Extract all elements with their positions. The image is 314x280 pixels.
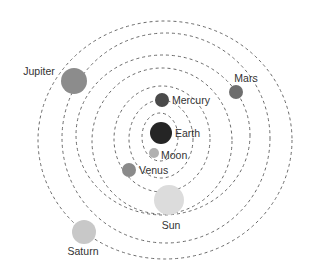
saturn-label: Saturn: [68, 245, 99, 257]
jupiter-label: Jupiter: [23, 65, 55, 77]
venus-label: Venus: [139, 164, 168, 176]
mars-label: Mars: [234, 72, 257, 84]
geocentric-diagram: EarthMoonMercuryVenusSunMarsJupiterSatur…: [0, 0, 314, 280]
saturn-body: [72, 220, 96, 244]
moon-label: Moon: [161, 149, 187, 161]
earth-body: [150, 122, 172, 144]
mars-body: [229, 85, 243, 99]
mercury-label: Mercury: [172, 94, 211, 106]
mercury-body: [155, 93, 169, 107]
sun-body: [154, 185, 184, 215]
earth-label: Earth: [175, 127, 200, 139]
sun-label: Sun: [162, 219, 181, 231]
moon-body: [149, 148, 159, 158]
jupiter-body: [61, 68, 87, 94]
venus-body: [122, 163, 136, 177]
labels-group: EarthMoonMercuryVenusSunMarsJupiterSatur…: [23, 65, 257, 257]
